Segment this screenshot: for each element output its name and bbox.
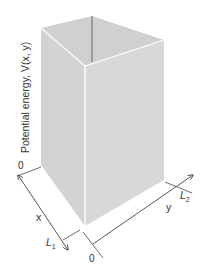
y-origin-label: 0 — [89, 253, 95, 264]
y-axis-label: y — [166, 201, 172, 213]
x-origin-label: 0 — [18, 160, 24, 171]
x-end-label: L1 — [46, 236, 56, 250]
y-end-label-subscript: 2 — [186, 196, 190, 203]
x-axis-label: x — [36, 211, 42, 223]
x-axis-end-tick — [63, 230, 80, 240]
x-end-label-subscript: 1 — [52, 243, 56, 250]
potential-box-diagram: Potential energy, V(x, y) 0 x L1 0 y L2 — [0, 0, 206, 274]
box-right-face — [85, 40, 164, 226]
potential-energy-label: Potential energy, V(x, y) — [19, 42, 31, 153]
